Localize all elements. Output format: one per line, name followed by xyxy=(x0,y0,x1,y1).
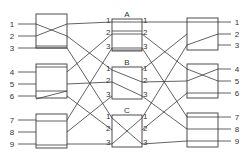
middle-B-in-2: 2 xyxy=(106,76,111,85)
input-port-label-7: 7 xyxy=(10,116,15,125)
middle-B-out-1: 1 xyxy=(143,64,148,73)
input-port-label-5: 5 xyxy=(10,80,15,89)
middle-B-in-1: 1 xyxy=(106,64,111,73)
middle-switch-A xyxy=(112,19,142,51)
input-port-label-8: 8 xyxy=(10,128,15,137)
output-port-label-8: 8 xyxy=(235,125,240,134)
middle-switch-label-C: C xyxy=(124,106,130,115)
middle-A-out-3: 3 xyxy=(143,42,148,51)
input-port-label-2: 2 xyxy=(10,32,15,41)
output-port-label-4: 4 xyxy=(235,65,240,74)
wire xyxy=(112,82,142,96)
input-port-label-6: 6 xyxy=(10,92,15,101)
input-port-label-9: 9 xyxy=(10,140,15,149)
middle-B-in-3: 3 xyxy=(106,90,111,99)
switching-network-diagram: 123456789A112233B112233C112233123456789 xyxy=(0,0,250,153)
input-port-label-3: 3 xyxy=(10,44,15,53)
middle-C-out-2: 2 xyxy=(143,124,148,133)
output-port-label-3: 3 xyxy=(235,41,240,50)
interconnect-wires xyxy=(18,22,231,145)
middle-A-out-2: 2 xyxy=(143,28,148,37)
diagram-canvas: 123456789A112233B112233C112233123456789 xyxy=(0,0,250,153)
wire xyxy=(112,70,142,82)
middle-A-out-1: 1 xyxy=(143,16,148,25)
input-switch-3 xyxy=(36,114,67,148)
output-port-label-2: 2 xyxy=(235,30,240,39)
middle-C-in-1: 1 xyxy=(106,112,111,121)
middle-switch-label-B: B xyxy=(124,58,129,67)
wire xyxy=(187,34,218,45)
output-port-label-7: 7 xyxy=(235,113,240,122)
middle-C-out-1: 1 xyxy=(143,112,148,121)
input-switch-2 xyxy=(36,64,67,98)
input-port-label-1: 1 xyxy=(10,20,15,29)
middle-switch-label-A: A xyxy=(124,10,130,19)
output-switch-3 xyxy=(187,113,218,147)
middle-B-out-2: 2 xyxy=(143,76,148,85)
middle-B-out-3: 3 xyxy=(143,90,148,99)
output-port-label-5: 5 xyxy=(235,77,240,86)
output-port-label-9: 9 xyxy=(235,137,240,146)
middle-A-in-2: 2 xyxy=(106,28,111,37)
middle-C-out-3: 3 xyxy=(143,138,148,147)
output-port-label-1: 1 xyxy=(235,18,240,27)
middle-C-in-3: 3 xyxy=(106,138,111,147)
input-port-label-4: 4 xyxy=(10,68,15,77)
middle-C-in-2: 2 xyxy=(106,124,111,133)
middle-A-in-1: 1 xyxy=(106,16,111,25)
output-port-label-6: 6 xyxy=(235,89,240,98)
wire xyxy=(142,141,187,144)
output-switch-1 xyxy=(187,18,218,50)
input-switch-1 xyxy=(36,14,67,48)
middle-A-in-3: 3 xyxy=(106,42,111,51)
